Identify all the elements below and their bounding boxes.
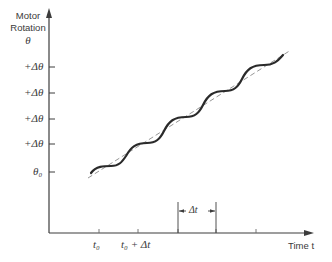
y-axis-title: Motor Rotation θ [8, 10, 48, 46]
y-tick-label: +Δθ [24, 137, 43, 149]
average-rotation-line [88, 50, 291, 178]
y-axis-title-line2: Rotation [8, 22, 48, 34]
delta-t-label: Δt [189, 204, 198, 215]
y-axis-title-line1: Motor [8, 10, 48, 22]
y-ticks [49, 67, 55, 172]
x-tick-label-t0-plus-dt: t₀ + Δt [121, 238, 150, 250]
y-axis-title-symbol: θ [8, 34, 48, 46]
y-tick-label: +Δθ [24, 60, 43, 72]
y-tick-label: +Δθ [24, 86, 43, 98]
x-axis-title: Time t [288, 240, 314, 251]
x-axis-arrow-icon [304, 230, 314, 236]
y-tick-label-theta0: θ₀ [33, 165, 42, 177]
x-tick-label-t0: t₀ [93, 238, 100, 250]
diagram-canvas [0, 0, 332, 262]
y-tick-label: +Δθ [24, 112, 43, 124]
